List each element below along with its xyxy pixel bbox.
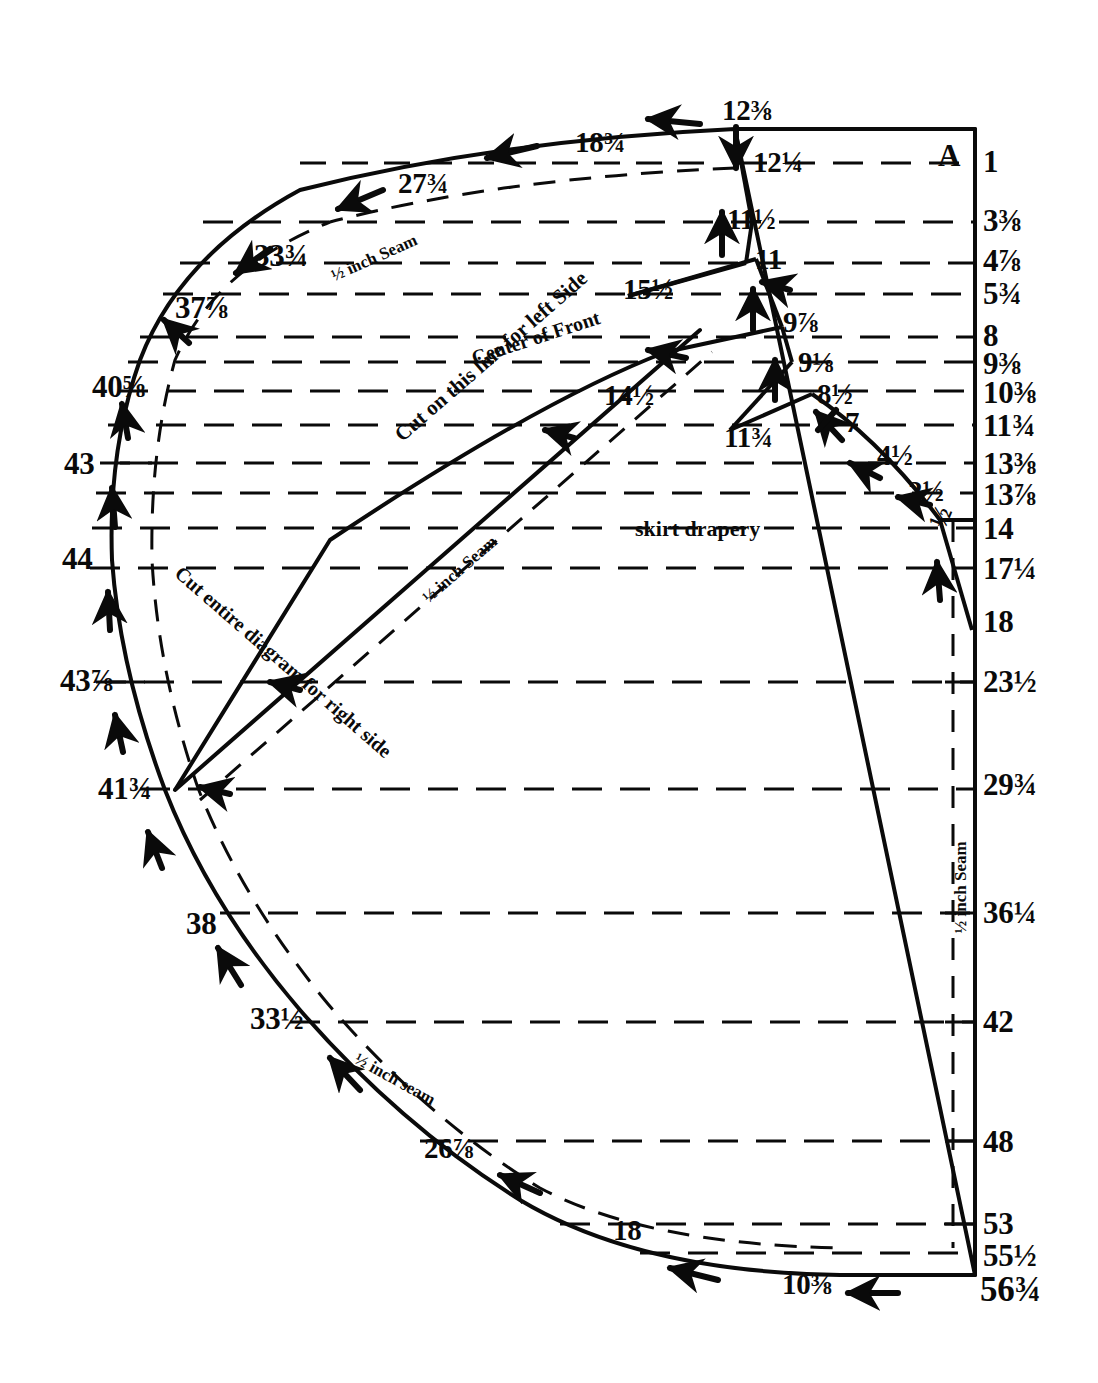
left-tick-40-5-8: 40⅝ — [92, 371, 146, 402]
side-seam-lower — [940, 520, 972, 630]
arrow-left-3 — [112, 488, 115, 527]
tick-marks — [108, 463, 975, 1224]
top-measure-12-3-8: 12⅜ — [722, 96, 772, 125]
right-tick-17: 42 — [983, 1006, 1014, 1037]
dart-measure-4-1-2: 4½ — [877, 441, 913, 470]
right-tick-2: 3⅜ — [983, 205, 1021, 236]
right-tick-1: 1 — [983, 146, 998, 177]
pattern-drawing — [0, 0, 1098, 1383]
arrow-bot-2 — [670, 1268, 718, 1280]
arrow-top-1 — [648, 119, 700, 124]
dart-measure-11-1-2: 11½ — [727, 205, 776, 234]
top-measure-18-3-4: 18¾ — [575, 128, 625, 157]
right-tick-16: 36¼ — [983, 897, 1037, 928]
pattern-sheet: 1 3⅜ 4⅞ 5¾ 8 9⅜ 10⅜ 11¾ 13⅜ 13⅞ 14 17¼ 1… — [0, 0, 1098, 1383]
arrow-top-3 — [338, 190, 383, 209]
dart-measure-14-1-2: 14½ — [604, 381, 654, 410]
arrow-left-5 — [115, 715, 123, 752]
dart-measure-9-7-8: 9⅞ — [783, 308, 819, 337]
seam-line-dashed — [152, 168, 840, 1248]
dart-measure-11-3-4: 11¾ — [724, 423, 773, 452]
right-tick-18: 48 — [983, 1126, 1014, 1157]
dart-measure-15-1-2: 15½ — [623, 275, 673, 304]
left-tick-37-7-8: 37⅞ — [175, 292, 229, 323]
right-tick-11: 14 — [983, 513, 1014, 544]
dart-measure-8-1-2: 8½ — [817, 380, 853, 409]
annotation-skirt-drapery: skirt drapery — [635, 518, 760, 540]
arrow-left-7 — [218, 948, 241, 985]
arrow-hip-2 — [850, 463, 880, 478]
bottom-measure-10-3-8: 10⅜ — [782, 1270, 832, 1299]
left-tick-43: 43 — [64, 448, 95, 479]
right-tick-10: 13⅞ — [983, 479, 1037, 510]
right-tick-14: 23½ — [983, 666, 1037, 697]
left-tick-44: 44 — [62, 543, 93, 574]
arrow-left-4 — [108, 592, 110, 630]
dart-measure-12-1-4: 12¼ — [753, 148, 803, 177]
right-tick-8: 11¾ — [983, 410, 1035, 441]
right-tick-9: 13⅜ — [983, 448, 1037, 479]
left-tick-33-3-4: 33¾ — [254, 240, 308, 271]
right-tick-3: 4⅞ — [983, 245, 1021, 276]
mid-dart — [175, 327, 975, 790]
corner-marker-a: A — [938, 140, 960, 171]
left-tick-41-3-4: 41¾ — [98, 773, 152, 804]
left-tick-38: 38 — [186, 908, 217, 939]
bottom-measure-26-7-8: 26⅞ — [424, 1134, 474, 1163]
dart-measure-11: 11 — [755, 245, 782, 274]
inner-seam-curve — [152, 168, 840, 1248]
arrow-hip-4 — [937, 562, 940, 600]
left-tick-33-1-2: 33½ — [250, 1003, 304, 1034]
right-tick-4: 5¾ — [983, 278, 1021, 309]
right-tick-13: 18 — [983, 606, 1014, 637]
left-tick-43-7-8: 43⅞ — [60, 665, 114, 696]
mid-dart-b — [730, 362, 792, 430]
top-measure-27-3-4: 27¾ — [398, 169, 448, 198]
right-tick-21: 56¾ — [980, 1272, 1041, 1307]
right-tick-7: 10⅜ — [983, 377, 1037, 408]
bottom-measure-18: 18 — [613, 1216, 642, 1245]
arrow-diag-4 — [200, 787, 230, 794]
arrow-diag-2 — [545, 430, 574, 438]
dart-measure-9-1-8: 9⅛ — [798, 348, 834, 377]
dart-measure-7: 7 — [845, 408, 859, 437]
dart-measure-2-1-2: 2½ — [908, 477, 944, 506]
right-tick-15: 29¾ — [983, 769, 1037, 800]
right-tick-20: 55½ — [983, 1240, 1037, 1271]
arrow-left-6 — [148, 832, 162, 868]
annotation-seam-right-vertical: ½ inch Seam — [952, 841, 969, 933]
right-tick-12: 17¼ — [983, 553, 1037, 584]
right-tick-19: 53 — [983, 1208, 1014, 1239]
